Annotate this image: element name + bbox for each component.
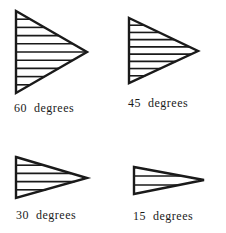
label-60-degrees: 60 degrees	[14, 101, 74, 115]
wedge-outline	[16, 157, 87, 198]
wedge-45-degrees	[129, 18, 198, 83]
wedge-60-degrees	[16, 11, 87, 93]
panel-45: 45 degrees	[128, 18, 198, 110]
wedge-angle-diagram: 60 degrees 45 degrees 30 degrees 15 degr…	[0, 0, 226, 233]
wedge-15-degrees	[134, 167, 204, 194]
label-30-degrees: 30 degrees	[16, 208, 76, 222]
panel-15: 15 degrees	[133, 167, 204, 223]
panel-60: 60 degrees	[14, 11, 87, 115]
wedge-outline	[129, 18, 198, 83]
wedge-outline	[134, 167, 204, 194]
label-45-degrees: 45 degrees	[128, 96, 188, 110]
wedge-30-degrees	[16, 157, 87, 198]
label-15-degrees: 15 degrees	[133, 209, 193, 223]
panel-30: 30 degrees	[16, 157, 87, 222]
